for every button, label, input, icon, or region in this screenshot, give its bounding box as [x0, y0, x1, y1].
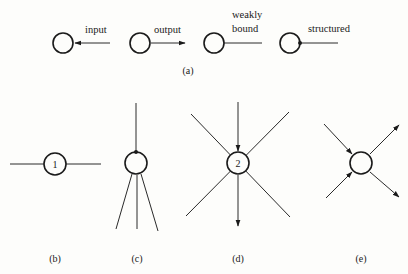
c-right-edge — [141, 174, 158, 231]
part-d: 2 — [186, 102, 290, 226]
e-output-arrow-2-icon — [370, 172, 399, 197]
legend-output: output — [130, 24, 185, 53]
d-node-label: 2 — [236, 158, 241, 169]
bound-label: bound — [232, 23, 259, 34]
caption-b: (b) — [49, 253, 61, 265]
caption-e: (e) — [355, 253, 366, 265]
c-node — [125, 152, 147, 174]
c-structured-dot-icon — [134, 150, 138, 154]
part-c — [116, 103, 158, 231]
input-node — [53, 33, 73, 53]
weakly-bound-node — [204, 33, 224, 53]
part-e — [324, 124, 399, 198]
output-label: output — [154, 24, 181, 35]
e-output-arrow-1-icon — [370, 125, 399, 154]
caption-c: (c) — [131, 253, 142, 265]
weakly-label: weakly — [232, 9, 263, 20]
structured-node — [280, 33, 300, 53]
output-node — [130, 33, 150, 53]
e-node — [350, 152, 372, 174]
structured-label: structured — [308, 23, 351, 34]
legend-structured: structured — [280, 23, 351, 53]
legend-input: input — [53, 24, 110, 53]
part-b: 1 — [10, 153, 101, 175]
b-node-label: 1 — [53, 159, 58, 170]
legend-weakly-bound: weakly bound — [204, 9, 263, 53]
e-input-arrow-1-icon — [324, 124, 352, 154]
diagram-canvas: input output weakly bound structured (a)… — [0, 0, 408, 274]
input-label: input — [85, 24, 107, 35]
caption-a: (a) — [182, 65, 193, 77]
e-input-arrow-2-icon — [326, 172, 352, 198]
c-left-edge — [116, 174, 132, 229]
caption-d: (d) — [232, 253, 244, 265]
structured-dot-icon — [298, 41, 302, 45]
